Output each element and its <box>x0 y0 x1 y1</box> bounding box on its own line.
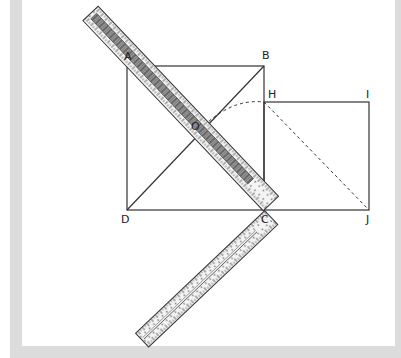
label-d: D <box>121 213 129 226</box>
label-a: A <box>124 50 132 63</box>
geometry-diagram: A B O H I D C J <box>0 0 401 358</box>
label-j: J <box>365 213 369 226</box>
label-o: O <box>191 120 200 133</box>
label-i: I <box>366 88 369 101</box>
ruler-lower-arm <box>136 211 278 347</box>
label-h: H <box>268 88 276 101</box>
dashed-diagonal-hj <box>264 102 369 210</box>
carpenter-square-ruler <box>83 6 279 347</box>
label-c: C <box>261 213 269 226</box>
label-b: B <box>262 49 270 62</box>
ruler-upper-arm <box>83 6 279 211</box>
